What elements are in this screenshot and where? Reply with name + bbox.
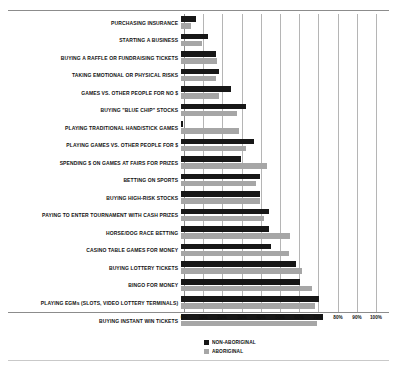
category-label: CASINO TABLE GAMES FOR MONEY <box>13 247 181 253</box>
bar-non-aboriginal <box>181 191 260 197</box>
bar-non-aboriginal <box>181 86 231 92</box>
bar-non-aboriginal <box>181 139 254 145</box>
category-label: PURCHASING INSURANCE <box>13 20 181 26</box>
chart-row: BUYING "BLUE CHIP" STOCKS <box>0 102 397 120</box>
bar-group <box>181 207 393 225</box>
bar-non-aboriginal <box>181 279 300 285</box>
bar-group <box>181 32 393 50</box>
bar-non-aboriginal <box>181 209 269 215</box>
chart-row: BUYING HIGH-RISK STOCKS <box>0 189 397 207</box>
category-label: BUYING A RAFFLE OR FUNDRAISING TICKETS <box>13 55 181 61</box>
bar-non-aboriginal <box>181 51 216 57</box>
bar-aboriginal <box>181 303 315 309</box>
chart-row: CASINO TABLE GAMES FOR MONEY <box>0 242 397 260</box>
bar-non-aboriginal <box>181 244 271 250</box>
bar-non-aboriginal <box>181 34 208 40</box>
bar-non-aboriginal <box>181 261 296 267</box>
bar-aboriginal <box>181 216 264 222</box>
bar-group <box>181 189 393 207</box>
x-tick-label: 60% <box>295 314 304 321</box>
chart-rows: PURCHASING INSURANCESTARTING A BUSINESSB… <box>0 14 397 312</box>
bar-non-aboriginal <box>181 174 260 180</box>
bar-group <box>181 259 393 277</box>
bar-group <box>181 224 393 242</box>
bar-non-aboriginal <box>181 296 319 302</box>
chart-row: BETTING ON SPORTS <box>0 172 397 190</box>
bar-aboriginal <box>181 58 217 64</box>
chart-row: STARTING A BUSINESS <box>0 32 397 50</box>
bar-group <box>181 49 393 67</box>
legend-item[interactable]: ABORIGINAL <box>204 347 260 355</box>
gambling-participation-bar-chart: PURCHASING INSURANCESTARTING A BUSINESSB… <box>0 0 397 366</box>
x-tick-label: 80% <box>333 314 342 321</box>
top-divider <box>8 10 389 11</box>
bar-non-aboriginal <box>181 16 196 22</box>
chart-row: PAYING TO ENTER TOURNAMENT WITH CASH PRI… <box>0 207 397 225</box>
bar-non-aboriginal <box>181 121 183 127</box>
bar-group <box>181 102 393 120</box>
category-label: GAMES VS. OTHER PEOPLE FOR NO $ <box>13 90 181 96</box>
legend-label: NON-ABORIGINAL <box>212 339 256 345</box>
category-label: BUYING HIGH-RISK STOCKS <box>13 195 181 201</box>
chart-row: BUYING LOTTERY TICKETS <box>0 259 397 277</box>
category-label: BUYING LOTTERY TICKETS <box>13 265 181 271</box>
category-label: STARTING A BUSINESS <box>13 37 181 43</box>
bar-aboriginal <box>181 23 191 29</box>
bar-group <box>181 154 393 172</box>
x-axis-line <box>8 312 389 313</box>
bottom-divider <box>8 360 389 361</box>
x-tick-label: 70% <box>314 314 323 321</box>
bar-group <box>181 67 393 85</box>
chart-row: PLAYING EGMs (SLOTS, VIDEO LOTTERY TERMI… <box>0 294 397 312</box>
x-tick-label: 30% <box>237 314 246 321</box>
legend-item[interactable]: NON-ABORIGINAL <box>204 338 260 346</box>
bar-group <box>181 14 393 32</box>
category-label: BETTING ON SPORTS <box>13 177 181 183</box>
bar-aboriginal <box>181 76 216 82</box>
bar-aboriginal <box>181 163 267 169</box>
bar-aboriginal <box>181 128 239 134</box>
bar-group <box>181 137 393 155</box>
bar-aboriginal <box>181 233 290 239</box>
legend-label: ABORIGINAL <box>212 348 243 354</box>
category-label: BUYING INSTANT WIN TICKETS <box>13 318 181 324</box>
category-label: BUYING "BLUE CHIP" STOCKS <box>13 107 181 113</box>
chart-row: PLAYING TRADITIONAL HAND/STICK GAMES <box>0 119 397 137</box>
chart-row: TAKING EMOTIONAL OR PHYSICAL RISKS <box>0 67 397 85</box>
bar-aboriginal <box>181 111 237 117</box>
category-label: HORSE/DOG RACE BETTING <box>13 230 181 236</box>
chart-row: PLAYING GAMES VS. OTHER PEOPLE FOR $ <box>0 137 397 155</box>
bar-aboriginal <box>181 41 202 47</box>
x-tick-label: 100% <box>370 314 382 321</box>
category-label: PLAYING GAMES VS. OTHER PEOPLE FOR $ <box>13 142 181 148</box>
bar-aboriginal <box>181 146 246 152</box>
bar-group <box>181 242 393 260</box>
category-label: SPENDING $ ON GAMES AT FAIRS FOR PRIZES <box>13 160 181 166</box>
x-tick-label: 20% <box>218 314 227 321</box>
category-label: BINGO FOR MONEY <box>13 282 181 288</box>
x-tick-label: 50% <box>275 314 284 321</box>
bar-non-aboriginal <box>181 69 219 75</box>
chart-row: SPENDING $ ON GAMES AT FAIRS FOR PRIZES <box>0 154 397 172</box>
chart-row: PURCHASING INSURANCE <box>0 14 397 32</box>
bar-non-aboriginal <box>181 104 246 110</box>
x-tick-label: 40% <box>256 314 265 321</box>
x-axis-tick-labels: 0%10%20%30%40%50%60%70%80%90%100% <box>184 314 376 324</box>
legend-swatch-icon <box>204 340 209 345</box>
bar-non-aboriginal <box>181 226 269 232</box>
category-label: PLAYING TRADITIONAL HAND/STICK GAMES <box>13 125 181 131</box>
bar-aboriginal <box>181 251 289 257</box>
chart-row: GAMES VS. OTHER PEOPLE FOR NO $ <box>0 84 397 102</box>
chart-legend: NON-ABORIGINALABORIGINAL <box>204 338 260 356</box>
category-label: TAKING EMOTIONAL OR PHYSICAL RISKS <box>13 72 181 78</box>
bar-aboriginal <box>181 93 219 99</box>
bar-group <box>181 84 393 102</box>
bar-aboriginal <box>181 198 260 204</box>
category-label: PAYING TO ENTER TOURNAMENT WITH CASH PRI… <box>13 212 181 218</box>
x-tick-label: 90% <box>352 314 361 321</box>
bar-group <box>181 119 393 137</box>
bar-group <box>181 172 393 190</box>
legend-swatch-icon <box>204 349 209 354</box>
category-label: PLAYING EGMs (SLOTS, VIDEO LOTTERY TERMI… <box>13 300 181 306</box>
bar-aboriginal <box>181 181 256 187</box>
